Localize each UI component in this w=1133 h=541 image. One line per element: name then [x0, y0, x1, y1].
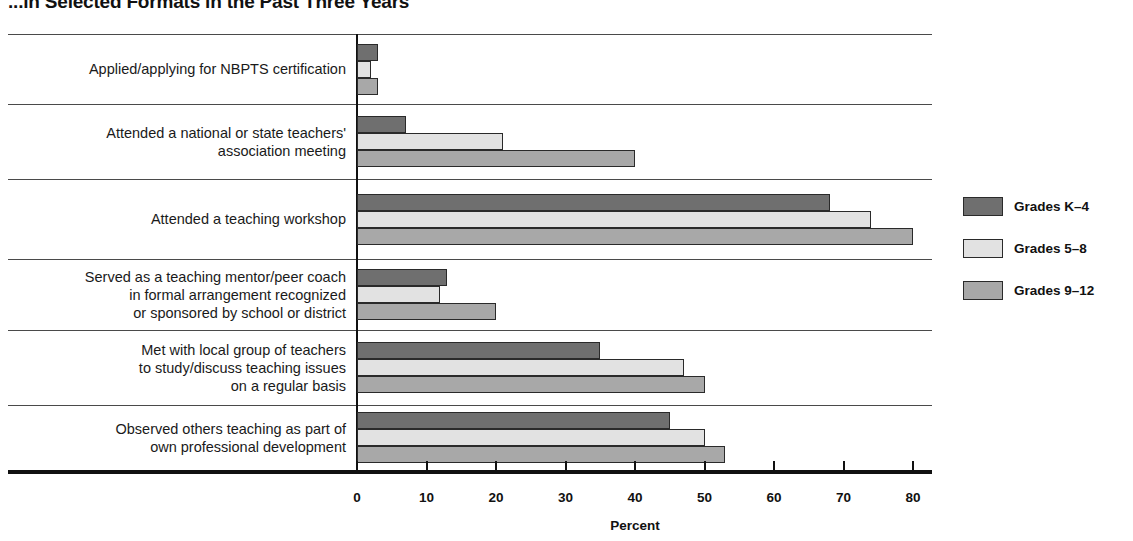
bar	[357, 228, 913, 245]
row-separator	[8, 405, 932, 406]
category-label: Met with local group of teachersto study…	[8, 341, 346, 395]
legend-swatch-icon	[963, 239, 1003, 258]
legend-item-label: Grades K–4	[1014, 199, 1089, 214]
category-label-line: Met with local group of teachers	[8, 341, 346, 359]
legend-swatch-icon	[963, 281, 1003, 300]
axis-baseline	[8, 470, 932, 474]
category-label-line: in formal arrangement recognized	[8, 286, 346, 304]
bar	[357, 286, 440, 303]
row-separator	[8, 104, 932, 105]
chart-container: ...in Selected Formats in the Past Three…	[0, 0, 1133, 541]
category-label-line: Observed others teaching as part of	[8, 420, 346, 438]
x-axis-tick	[426, 461, 428, 470]
bar	[357, 116, 406, 133]
legend-item[interactable]: Grades K–4	[963, 196, 1094, 216]
legend-item-label: Grades 5–8	[1014, 241, 1087, 256]
category-label-line: Attended a teaching workshop	[8, 210, 346, 228]
legend-item[interactable]: Grades 5–8	[963, 238, 1094, 258]
x-axis-tick	[704, 461, 706, 470]
x-axis-title: Percent	[575, 518, 695, 533]
category-label: Observed others teaching as part ofown p…	[8, 420, 346, 456]
bar	[357, 446, 725, 463]
category-label: Applied/applying for NBPTS certification	[8, 60, 346, 78]
row-separator	[8, 34, 932, 35]
chart-legend: Grades K–4Grades 5–8Grades 9–12	[963, 196, 1094, 322]
x-axis-tick	[356, 461, 358, 470]
bar	[357, 194, 830, 211]
x-axis-tick-label: 50	[685, 490, 725, 505]
plot-area: Applied/applying for NBPTS certification…	[8, 34, 932, 474]
row-separator	[8, 330, 932, 331]
category-label-line: Applied/applying for NBPTS certification	[8, 60, 346, 78]
x-axis-tick	[565, 461, 567, 470]
row-separator	[8, 259, 932, 260]
bar	[357, 44, 378, 61]
category-label-line: to study/discuss teaching issues	[8, 359, 346, 377]
bar	[357, 342, 600, 359]
bar	[357, 359, 684, 376]
bar	[357, 376, 705, 393]
x-axis-tick	[773, 461, 775, 470]
x-axis-tick	[495, 461, 497, 470]
category-label: Attended a national or state teachers'as…	[8, 124, 346, 160]
bar	[357, 133, 503, 150]
category-label-line: on a regular basis	[8, 377, 346, 395]
category-label-line: Served as a teaching mentor/peer coach	[8, 268, 346, 286]
chart-title: ...in Selected Formats in the Past Three…	[8, 0, 409, 13]
x-axis-tick	[843, 461, 845, 470]
x-axis-tick-label: 0	[337, 490, 377, 505]
bar	[357, 78, 378, 95]
legend-swatch-icon	[963, 197, 1003, 216]
bar	[357, 303, 496, 320]
bar	[357, 150, 635, 167]
bar	[357, 211, 871, 228]
x-axis-tick-label: 30	[546, 490, 586, 505]
x-axis-tick	[912, 461, 914, 470]
x-axis-tick-label: 20	[476, 490, 516, 505]
legend-item[interactable]: Grades 9–12	[963, 280, 1094, 300]
bar	[357, 412, 670, 429]
x-axis-tick-label: 60	[754, 490, 794, 505]
x-axis-tick-label: 10	[407, 490, 447, 505]
category-label: Attended a teaching workshop	[8, 210, 346, 228]
bar	[357, 61, 371, 78]
category-label-line: Attended a national or state teachers'	[8, 124, 346, 142]
category-label-line: association meeting	[8, 142, 346, 160]
x-axis-tick-label: 70	[824, 490, 864, 505]
category-label-line: own professional development	[8, 438, 346, 456]
legend-item-label: Grades 9–12	[1014, 283, 1094, 298]
bar	[357, 269, 447, 286]
x-axis-tick	[634, 461, 636, 470]
category-label: Served as a teaching mentor/peer coachin…	[8, 268, 346, 322]
row-separator	[8, 179, 932, 180]
bar	[357, 429, 705, 446]
y-axis-line	[356, 34, 358, 474]
x-axis-tick-label: 40	[615, 490, 655, 505]
x-axis-tick-label: 80	[893, 490, 933, 505]
category-label-line: or sponsored by school or district	[8, 304, 346, 322]
